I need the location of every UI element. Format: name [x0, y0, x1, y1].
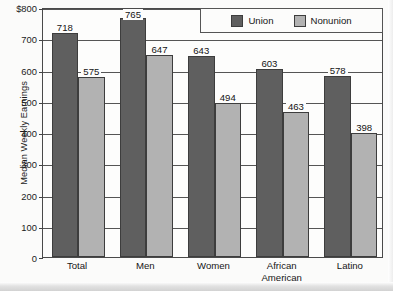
bar-value-label-union-men: 765: [123, 9, 143, 20]
bar-value-label-nonunion-men: 647: [150, 44, 170, 55]
legend-swatch-union-icon: [231, 15, 243, 27]
x-label-line: Total: [67, 260, 87, 272]
y-axis-tick-labels: 0100200300400500600700$800: [0, 0, 40, 291]
legend-swatch-nonunion-icon: [294, 15, 306, 27]
plot-area: 718575765647643494603463578398: [42, 8, 383, 258]
bar-union-total: [52, 33, 79, 257]
tick-mark-0: [39, 258, 43, 259]
bar-nonunion-women: [215, 103, 242, 257]
y-tick-label-500: 500: [21, 96, 37, 107]
legend-item-nonunion[interactable]: Nonunion: [294, 15, 352, 27]
bar-value-label-union-latino: 578: [328, 65, 348, 76]
x-label-latino: Latino: [337, 260, 363, 272]
bar-nonunion-african-american: [283, 112, 310, 257]
legend-item-union[interactable]: Union: [231, 15, 273, 27]
bar-value-label-nonunion-african-american: 463: [286, 101, 306, 112]
y-tick-label-300: 300: [21, 159, 37, 170]
y-tick-label-100: 100: [21, 221, 37, 232]
y-tick-label-400: 400: [21, 128, 37, 139]
chart-legend: UnionNonunion: [200, 8, 383, 33]
y-tick-label-700: 700: [21, 34, 37, 45]
legend-label: Union: [248, 15, 273, 26]
y-tick-label-200: 200: [21, 190, 37, 201]
bar-value-label-union-african-american: 603: [259, 58, 279, 69]
x-label-line: African: [261, 260, 302, 272]
bar-union-latino: [324, 76, 351, 257]
bar-union-african-american: [256, 69, 283, 257]
bar-union-women: [188, 56, 215, 257]
y-tick-label-800: $800: [16, 3, 37, 14]
bar-nonunion-latino: [351, 133, 378, 257]
bar-value-label-union-total: 718: [55, 22, 75, 33]
x-label-women: Women: [197, 260, 230, 272]
bar-value-label-nonunion-women: 494: [218, 92, 238, 103]
y-tick-label-600: 600: [21, 65, 37, 76]
x-label-line: Women: [197, 260, 230, 272]
x-label-total: Total: [67, 260, 87, 272]
x-label-line: Men: [136, 260, 155, 272]
bar-chart-figure: Median Weekly Earnings 01002003004005006…: [0, 0, 393, 291]
bar-value-label-nonunion-total: 575: [81, 66, 101, 77]
legend-label: Nonunion: [311, 15, 352, 26]
x-label-men: Men: [136, 260, 155, 272]
x-label-line: Latino: [337, 260, 363, 272]
bar-union-men: [120, 18, 147, 257]
bar-series-group: 718575765647643494603463578398: [43, 9, 382, 257]
bar-value-label-union-women: 643: [191, 45, 211, 56]
bar-nonunion-total: [78, 77, 105, 257]
bar-nonunion-men: [146, 55, 173, 257]
page-edge-shadow-bottom: [0, 282, 393, 291]
y-tick-label-0: 0: [32, 253, 37, 264]
x-label-african-american: AfricanAmerican: [261, 260, 302, 283]
bar-value-label-nonunion-latino: 398: [354, 122, 374, 133]
